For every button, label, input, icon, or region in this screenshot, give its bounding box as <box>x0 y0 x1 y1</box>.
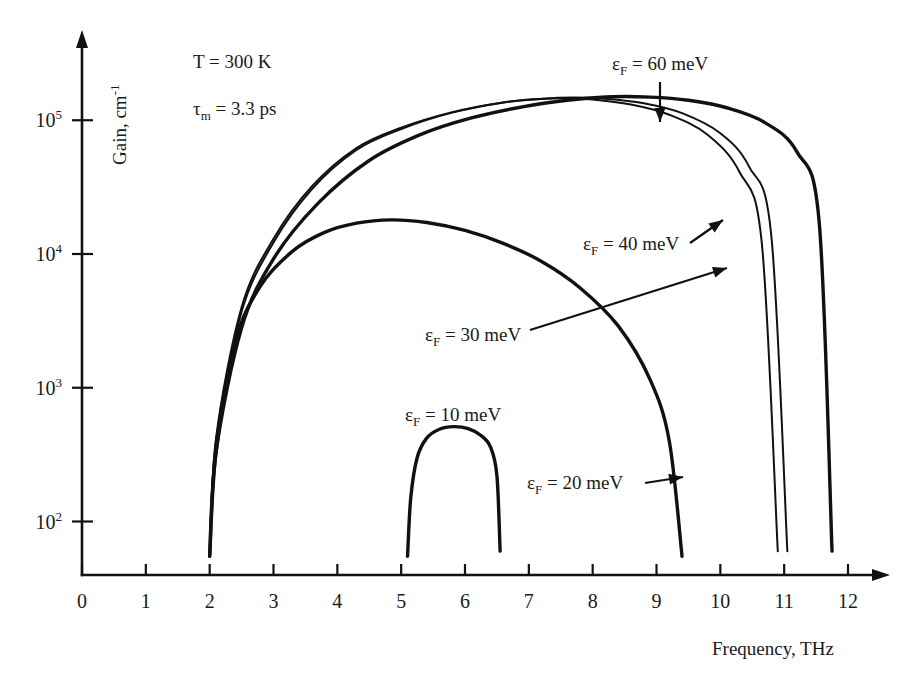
curve-label-value: = 10 meV <box>420 404 501 425</box>
x-tick-label-0: 0 <box>77 590 87 612</box>
parameter-annotations: T = 300 K τm = 3.3 ps <box>193 51 276 123</box>
x-tick-label-1: 1 <box>141 590 151 612</box>
epsilon-glyph: ε <box>405 404 413 425</box>
figure-root: 0123456789101112 102103104105 Gain, cm-1… <box>0 0 920 688</box>
y-axis-title-exponent: -1 <box>107 85 122 96</box>
x-tick-label-3: 3 <box>269 590 279 612</box>
arrow-head-ef60 <box>655 108 666 122</box>
y-tick-mantissa: 10 <box>36 377 56 399</box>
curve-ef-10mev <box>408 427 501 557</box>
y-tick-exponent: 4 <box>56 241 63 256</box>
curve-label-ef40: εF = 40 meV <box>583 233 679 258</box>
relaxation-time-value: = 3.3 ps <box>211 98 277 119</box>
fermi-subscript: F <box>535 482 542 497</box>
epsilon-glyph: ε <box>425 324 433 345</box>
y-axis-tick-labels: 102103104105 <box>36 107 63 532</box>
temperature-annotation: T = 300 K <box>193 51 272 72</box>
x-tick-label-11: 11 <box>775 590 794 612</box>
x-tick-label-12: 12 <box>838 590 858 612</box>
fermi-subscript: F <box>413 414 420 429</box>
curve-label-value: = 30 meV <box>440 324 521 345</box>
epsilon-glyph: ε <box>527 472 535 493</box>
curve-ef-20mev <box>210 220 682 556</box>
x-tick-label-9: 9 <box>652 590 662 612</box>
y-axis-arrowhead <box>76 30 88 48</box>
curve-label-value: = 40 meV <box>598 233 679 254</box>
gain-vs-frequency-chart: 0123456789101112 102103104105 Gain, cm-1… <box>0 0 920 688</box>
epsilon-glyph: ε <box>612 53 620 74</box>
y-axis-title: Gain, cm-1 <box>107 85 130 166</box>
y-tick-label-1e3: 103 <box>36 375 63 399</box>
x-tick-label-2: 2 <box>205 590 215 612</box>
curve-label-value: = 20 meV <box>542 472 623 493</box>
y-tick-mantissa: 10 <box>36 109 56 131</box>
curve-label-value: = 60 meV <box>627 53 708 74</box>
x-tick-label-5: 5 <box>396 590 406 612</box>
y-tick-label-1e5: 105 <box>36 107 63 131</box>
arrow-head-ef40 <box>708 220 723 233</box>
x-tick-label-4: 4 <box>332 590 342 612</box>
curve-label-ef20: εF = 20 meV <box>527 472 623 497</box>
curve-label-ef30: εF = 30 meV <box>425 324 521 349</box>
x-tick-label-8: 8 <box>588 590 598 612</box>
arrow-head-ef30 <box>712 267 727 277</box>
y-tick-label-1e4: 104 <box>36 241 63 265</box>
x-tick-label-6: 6 <box>460 590 470 612</box>
fermi-subscript: F <box>591 243 598 258</box>
y-axis-title-text: Gain, cm <box>109 95 130 165</box>
y-tick-exponent: 3 <box>56 375 63 390</box>
fermi-subscript: F <box>620 63 627 78</box>
y-tick-mantissa: 10 <box>36 243 56 265</box>
x-tick-label-10: 10 <box>710 590 730 612</box>
arrow-line-ef30 <box>530 268 727 330</box>
y-tick-exponent: 5 <box>56 107 63 122</box>
relaxation-time-annotation: τm = 3.3 ps <box>193 98 276 123</box>
curve-label-ef60: εF = 60 meV <box>612 53 708 78</box>
x-axis-tick-labels: 0123456789101112 <box>77 590 858 612</box>
epsilon-glyph: ε <box>583 233 591 254</box>
x-axis-ticks <box>82 564 848 575</box>
relaxation-time-subscript: m <box>201 108 211 123</box>
y-tick-exponent: 2 <box>56 509 63 524</box>
temperature-text: T = 300 K <box>193 51 272 72</box>
y-tick-label-1e2: 102 <box>36 509 63 533</box>
x-axis-arrowhead <box>872 569 890 581</box>
y-tick-mantissa: 10 <box>36 511 56 533</box>
x-axis-title: Frequency, THz <box>712 638 834 659</box>
fermi-subscript: F <box>433 334 440 349</box>
x-tick-label-7: 7 <box>524 590 534 612</box>
svg-text:Gain, cm-1: Gain, cm-1 <box>107 85 130 166</box>
